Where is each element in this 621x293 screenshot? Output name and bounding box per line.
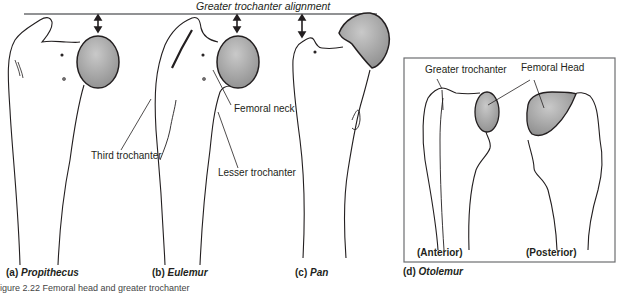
label-anterior: (Anterior) <box>417 247 463 258</box>
femoral-head-b <box>217 36 259 88</box>
femur-a-propithecus <box>8 18 84 265</box>
label-third-trochanter: Third trochanter <box>91 150 162 161</box>
leader-third-trochanter <box>121 99 151 150</box>
caption-panel-b-prefix: (b) <box>152 267 165 278</box>
femoral-head-d-posterior <box>527 92 576 136</box>
femur-c-pan <box>293 38 370 258</box>
caption-panel-b: (b) Eulemur <box>152 267 208 278</box>
femoral-head-d-anterior <box>475 92 499 132</box>
label-lesser-trochanter: Lesser trochanter <box>218 167 296 178</box>
caption-panel-b-taxon: Eulemur <box>168 267 208 278</box>
label-posterior: (Posterior) <box>526 247 577 258</box>
caption-panel-c-prefix: (c) <box>295 267 307 278</box>
caption-panel-a: (a) Propithecus <box>6 267 79 278</box>
caption-panel-d-prefix: (d) <box>403 266 416 277</box>
figure-caption: igure 2.22 Femoral head and greater troc… <box>0 283 190 293</box>
label-greater-trochanter: Greater trochanter <box>425 64 507 75</box>
femoral-head-c <box>339 13 389 68</box>
caption-panel-a-taxon: Propithecus <box>21 267 79 278</box>
caption-panel-c-taxon: Pan <box>310 267 328 278</box>
caption-panel-d: (d) Otolemur <box>403 266 463 277</box>
label-femoral-neck: Femoral neck <box>234 103 295 114</box>
alignment-title: Greater trochanter alignment <box>196 0 330 12</box>
leader-greater-trochanter <box>437 79 442 89</box>
caption-panel-c: (c) Pan <box>295 267 328 278</box>
alignment-arrow-a <box>95 15 101 32</box>
alignment-arrow-c <box>299 15 305 37</box>
caption-panel-a-prefix: (a) <box>6 267 18 278</box>
caption-panel-d-taxon: Otolemur <box>419 266 463 277</box>
leader-femoral-head-anterior <box>488 80 530 105</box>
femoral-head-a <box>77 36 119 88</box>
alignment-arrow-b <box>234 15 240 32</box>
leader-lesser-trochanter <box>218 112 238 168</box>
label-femoral-head: Femoral Head <box>521 62 584 73</box>
